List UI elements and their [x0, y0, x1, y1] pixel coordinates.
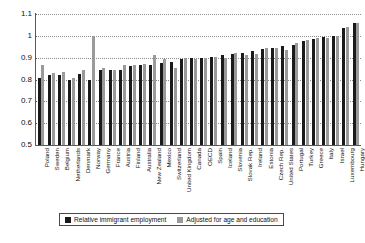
bar-adjusted [245, 55, 248, 145]
x-axis-category-cell: Portugal [290, 147, 300, 203]
x-axis-category-cell: Slovak Rep. [239, 147, 249, 203]
bar-group [320, 14, 330, 145]
bar-adjusted [265, 48, 268, 145]
bar-group [158, 14, 168, 145]
legend-label: Relative immigrant employment [74, 216, 166, 223]
bar-relative [200, 58, 203, 145]
bar-relative [292, 45, 295, 145]
y-axis-tick-mark [35, 14, 37, 15]
x-axis-category-cell: Belgium [56, 147, 66, 203]
y-axis-tick-mark [35, 101, 37, 102]
x-axis-category-cell: France [107, 147, 117, 203]
bar-group [229, 14, 239, 145]
x-axis-line [35, 145, 361, 146]
x-axis-category-cell: Spain [209, 147, 219, 203]
bar-relative [271, 48, 274, 145]
x-axis-category-cell: Finland [127, 147, 137, 203]
bar-relative [322, 37, 325, 145]
bar-group [87, 14, 97, 145]
bar-relative [129, 66, 132, 145]
bar-group [209, 14, 219, 145]
bar-adjusted [285, 50, 288, 145]
plot-area [36, 14, 361, 145]
y-axis-tick-label: 1.1 [2, 10, 32, 18]
x-axis-category-cell: Sweden [46, 147, 56, 203]
y-axis-tick-label: 0.6 [2, 119, 32, 127]
bar-adjusted [275, 48, 278, 145]
y-axis-tick-label: 1 [2, 32, 32, 40]
bar-group [148, 14, 158, 145]
bar-relative [88, 80, 91, 146]
bar-relative [251, 51, 254, 145]
bar-relative [68, 80, 71, 146]
y-axis-tick-label: 0.8 [2, 76, 32, 84]
bar-relative [190, 58, 193, 145]
bar-adjusted [62, 72, 65, 145]
bar-relative [332, 36, 335, 145]
x-axis-category-cell: Norway [87, 147, 97, 203]
bar-group [66, 14, 76, 145]
bar-adjusted [214, 57, 217, 145]
bar-adjusted [326, 38, 329, 145]
x-axis-category-cell: Poland [36, 147, 46, 203]
bar-adjusted [346, 27, 349, 145]
bar-group [259, 14, 269, 145]
bar-relative [119, 70, 122, 145]
bar-group [138, 14, 148, 145]
bar-group [127, 14, 137, 145]
x-axis-category-cell: Australia [138, 147, 148, 203]
bar-group [300, 14, 310, 145]
bar-adjusted [295, 43, 298, 145]
y-axis-tick-mark [35, 80, 37, 81]
y-axis-tick-label: 0.7 [2, 97, 32, 105]
x-axis-category-cell: United Kingdom [178, 147, 188, 203]
x-axis-category-cell: Greece [310, 147, 320, 203]
bar-relative [78, 74, 81, 145]
bar-adjusted [255, 54, 258, 145]
bar-adjusted [153, 55, 156, 145]
x-axis-category-cell: Netherlands [66, 147, 76, 203]
bar-group [199, 14, 209, 145]
bar-relative [302, 41, 305, 145]
bar-group [188, 14, 198, 145]
y-axis-tick-mark [35, 36, 37, 37]
bar-adjusted [72, 78, 75, 145]
bar-adjusted [184, 58, 187, 145]
bar-adjusted [92, 36, 95, 145]
bar-adjusted [336, 36, 339, 145]
bar-relative [139, 65, 142, 145]
x-axis-category-labels: PolandSwedenBelgiumNetherlandsDenmarkNor… [36, 147, 361, 203]
x-axis-category-cell: New Zealand [148, 147, 158, 203]
y-axis-tick-mark [35, 123, 37, 124]
bar-adjusted [224, 58, 227, 145]
legend-label: Adjusted for age and education [186, 216, 277, 223]
legend-swatch-adjusted [177, 217, 183, 223]
bar-adjusted [102, 68, 105, 146]
x-axis-category-cell: Iceland [219, 147, 229, 203]
bar-relative [109, 70, 112, 145]
bar-relative [261, 49, 264, 145]
bar-relative [149, 65, 152, 145]
y-axis-tick-mark [35, 58, 37, 59]
bar-group [97, 14, 107, 145]
bar-adjusted [123, 65, 126, 145]
bar-relative [210, 57, 213, 145]
x-axis-category-cell: Mexico [158, 147, 168, 203]
bar-group [36, 14, 46, 145]
bar-relative [58, 75, 61, 145]
bar-group [310, 14, 320, 145]
bar-relative [221, 55, 224, 145]
bar-group [46, 14, 56, 145]
y-axis-tick-mark [35, 145, 37, 146]
x-axis-category-cell: Switzerland [168, 147, 178, 203]
bar-adjusted [306, 40, 309, 145]
bar-adjusted [41, 65, 44, 145]
bar-relative [353, 23, 356, 145]
x-axis-category-cell: Italy [320, 147, 330, 203]
chart-legend: Relative immigrant employmentAdjusted fo… [59, 213, 284, 226]
x-axis-category-cell: Germany [97, 147, 107, 203]
x-axis-category-cell: United States [280, 147, 290, 203]
bar-group [219, 14, 229, 145]
x-axis-category-cell: Hungary [351, 147, 361, 203]
bar-adjusted [143, 64, 146, 145]
